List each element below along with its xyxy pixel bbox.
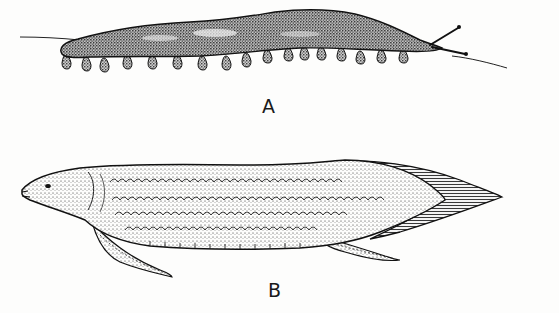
fish-eye bbox=[45, 184, 51, 188]
worm-antenna-upper bbox=[430, 28, 458, 45]
substrate-line-right bbox=[452, 56, 507, 68]
illustration-figure: A B bbox=[0, 0, 559, 313]
panel-label-a: A bbox=[262, 97, 275, 116]
panel-a-worm bbox=[20, 10, 507, 72]
panel-b-fish bbox=[22, 160, 502, 277]
substrate-line-left bbox=[20, 37, 80, 40]
panel-label-b: B bbox=[268, 281, 281, 300]
